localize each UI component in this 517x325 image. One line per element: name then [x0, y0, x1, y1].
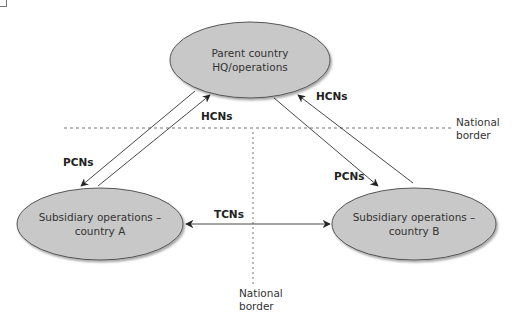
- node-subsidiary-a: Subsidiary operations – country A: [17, 188, 183, 260]
- arrow-a-to-parent: [98, 95, 210, 186]
- label-hcns-b: HCNs: [316, 90, 348, 102]
- label-pcns-b: PCNs: [334, 170, 364, 182]
- node-parent-line2: HQ/operations: [212, 61, 288, 73]
- border-label-vertical-line1: National: [239, 287, 283, 299]
- node-a-line2: country A: [75, 225, 126, 237]
- border-label-horizontal-line2: border: [456, 129, 491, 141]
- label-pcns-a: PCNs: [63, 156, 93, 168]
- node-parent-hq: Parent country HQ/operations: [170, 22, 330, 98]
- node-a-line1: Subsidiary operations –: [39, 211, 162, 223]
- node-b-line1: Subsidiary operations –: [353, 211, 476, 223]
- staffing-flow-diagram: Parent country HQ/operations Subsidiary …: [0, 0, 517, 325]
- label-hcns-a: HCNs: [201, 110, 233, 122]
- node-b-line2: country B: [389, 225, 440, 237]
- border-label-vertical-line2: border: [239, 300, 274, 312]
- border-label-horizontal-line1: National: [456, 116, 500, 128]
- node-parent-line1: Parent country: [211, 47, 288, 59]
- label-tcns: TCNs: [214, 208, 244, 220]
- node-subsidiary-b: Subsidiary operations – country B: [332, 188, 496, 260]
- arrow-parent-to-a: [81, 91, 195, 186]
